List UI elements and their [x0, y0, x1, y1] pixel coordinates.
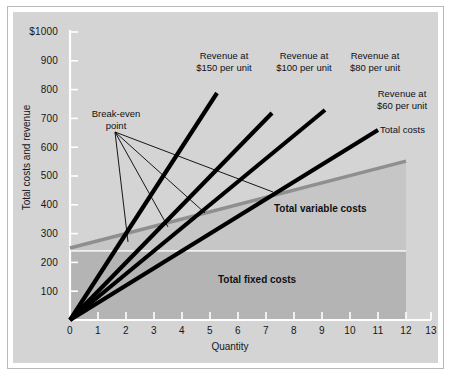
x-tick-7: 7	[256, 325, 276, 336]
x-tick-13: 13	[421, 325, 441, 336]
x-tick-12: 12	[396, 325, 416, 336]
y-tick-1000: $1000	[16, 26, 58, 37]
revenue-150-annotation: Revenue at $150 per unit	[188, 50, 260, 73]
x-tick-3: 3	[144, 325, 164, 336]
x-tick-9: 9	[312, 325, 332, 336]
x-tick-1: 1	[88, 325, 108, 336]
y-tick-100: 100	[16, 286, 58, 297]
revenue-60-annotation: Revenue at $60 per unit	[366, 88, 438, 111]
x-tick-0: 0	[60, 325, 80, 336]
revenue-100-annotation: Revenue at $100 per unit	[268, 50, 340, 73]
total-fixed-costs-label: Total fixed costs	[218, 274, 296, 285]
y-tick-300: 300	[16, 228, 58, 239]
break-even-annotation: Break-even point	[80, 108, 152, 131]
x-axis-title: Quantity	[170, 341, 290, 352]
x-tick-2: 2	[116, 325, 136, 336]
x-tick-5: 5	[200, 325, 220, 336]
x-tick-4: 4	[172, 325, 192, 336]
y-tick-800: 800	[16, 84, 58, 95]
total-variable-costs-label: Total variable costs	[274, 203, 367, 214]
total-costs-annotation: Total costs	[380, 124, 440, 136]
x-tick-10: 10	[340, 325, 360, 336]
y-tick-200: 200	[16, 257, 58, 268]
y-axis-title: Total costs and revenue	[21, 98, 32, 218]
break-even-chart-figure: $1000 900 800 700 600 500 400 300 200 10…	[0, 0, 453, 379]
x-tick-6: 6	[228, 325, 248, 336]
total-fixed-costs-region	[70, 251, 406, 320]
x-tick-8: 8	[284, 325, 304, 336]
revenue-80-annotation: Revenue at $80 per unit	[341, 50, 409, 73]
x-tick-11: 11	[368, 325, 388, 336]
y-tick-900: 900	[16, 55, 58, 66]
